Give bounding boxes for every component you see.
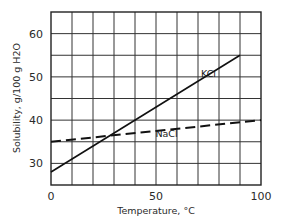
y-tick-label: 50 — [29, 71, 43, 84]
axis-ticks: 05010030405060 — [29, 28, 272, 203]
x-axis-label: Temperature, °C — [116, 205, 195, 216]
series-label-kcl: KCl — [201, 68, 216, 79]
plot-grid — [51, 12, 261, 185]
solubility-chart: KClNaCl 05010030405060 Temperature, °C S… — [0, 0, 283, 221]
y-tick-label: 60 — [29, 28, 43, 41]
y-tick-label: 30 — [29, 157, 43, 170]
x-tick-label: 100 — [251, 190, 272, 203]
series-label-nacl: NaCl — [155, 128, 177, 139]
x-tick-label: 50 — [149, 190, 163, 203]
y-axis-label: Solubility, g/100 g H2O — [11, 43, 22, 153]
y-tick-label: 40 — [29, 114, 43, 127]
x-tick-label: 0 — [48, 190, 55, 203]
